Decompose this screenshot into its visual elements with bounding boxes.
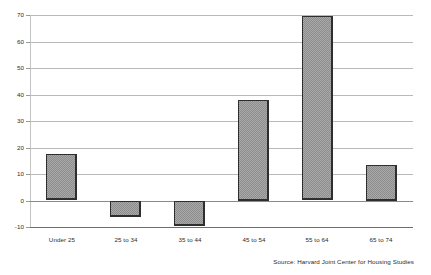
y-axis-label-wrap: -10	[0, 224, 24, 231]
bar	[238, 100, 269, 201]
plot-area	[30, 15, 413, 227]
y-axis-tick	[26, 227, 30, 228]
y-axis-label-wrap: 50	[0, 65, 24, 72]
x-axis-label: 55 to 64	[285, 236, 349, 243]
x-axis-label: 45 to 54	[222, 236, 286, 243]
bar	[110, 201, 141, 217]
y-axis-label-wrap: 10	[0, 171, 24, 178]
y-axis-label-wrap: 30	[0, 118, 24, 125]
y-axis-label-wrap: 20	[0, 145, 24, 152]
x-axis-label: 65 to 74	[349, 236, 413, 243]
bar	[174, 201, 205, 226]
y-axis-label: 50	[0, 65, 24, 71]
source-note: Source: Harvard Joint Center for Housing…	[273, 258, 414, 265]
y-axis-label: 30	[0, 118, 24, 124]
y-axis-label-wrap: 60	[0, 39, 24, 46]
y-axis-label-wrap: 0	[0, 198, 24, 205]
y-axis-label: 40	[0, 92, 24, 98]
y-axis-label: 60	[0, 39, 24, 45]
y-axis-label: -10	[0, 224, 24, 230]
y-axis-label: 10	[0, 171, 24, 177]
x-axis-label: 35 to 44	[158, 236, 222, 243]
x-axis-label: Under 25	[30, 236, 94, 243]
bar	[366, 165, 397, 201]
y-axis-label: 20	[0, 145, 24, 151]
bar-chart: -10010203040506070 Under 2525 to 3435 to…	[0, 0, 431, 275]
y-axis-label: 70	[0, 12, 24, 18]
x-axis-label: 25 to 34	[94, 236, 158, 243]
gridline	[30, 227, 413, 228]
y-axis-label: 0	[0, 198, 24, 204]
y-axis-label-wrap: 70	[0, 12, 24, 19]
bar	[302, 16, 333, 200]
bar	[46, 154, 77, 200]
y-axis-label-wrap: 40	[0, 92, 24, 99]
